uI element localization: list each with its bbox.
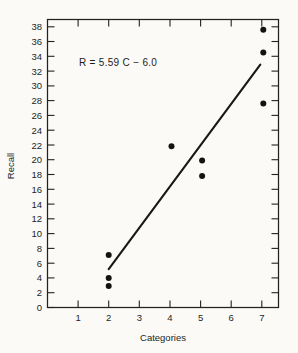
data-point [169,143,175,149]
x-tick-labels: 1 2 3 4 5 6 7 [75,312,264,323]
y-tick-label: 30 [31,80,42,91]
y-tick-label: 12 [31,213,42,224]
y-axis-title: Recall [5,153,16,179]
x-axis-ticks [78,301,262,308]
x-axis-ticks-top [78,20,262,27]
x-tick-label: 4 [167,312,172,323]
scatter-plot-figure: 0 2 4 6 8 10 12 14 16 18 20 22 24 26 28 … [0,0,298,353]
y-tick-label: 32 [31,66,42,77]
data-point [199,173,205,179]
data-point [260,50,266,56]
data-point [106,283,112,289]
y-tick-label: 16 [31,184,42,195]
x-tick-label: 7 [259,312,264,323]
y-tick-label: 26 [31,110,42,121]
data-point [106,252,112,258]
y-tick-labels: 0 2 4 6 8 10 12 14 16 18 20 22 24 26 28 … [31,21,42,313]
x-axis-title: Categories [140,332,186,343]
y-tick-label: 20 [31,154,42,165]
y-tick-label: 28 [31,95,42,106]
x-tick-label: 5 [198,312,203,323]
y-axis-ticks-right [272,27,279,293]
x-tick-label: 6 [229,312,234,323]
x-tick-label: 1 [75,312,80,323]
y-tick-label: 24 [31,125,42,136]
x-tick-label: 3 [137,312,142,323]
plot-canvas: 0 2 4 6 8 10 12 14 16 18 20 22 24 26 28 … [0,0,298,353]
y-tick-label: 6 [37,258,42,269]
y-tick-label: 10 [31,228,42,239]
regression-equation-label: R = 5.59 C − 6.0 [79,57,157,68]
regression-fit-line [109,65,261,270]
y-tick-label: 18 [31,169,42,180]
y-tick-label: 8 [37,243,42,254]
data-point [260,101,266,107]
data-point [106,275,112,281]
data-point [199,157,205,163]
y-tick-label: 38 [31,21,42,32]
y-tick-label: 14 [31,199,42,210]
x-tick-label: 2 [106,312,111,323]
data-point [260,27,266,33]
y-tick-label: 4 [37,272,42,283]
y-tick-label: 0 [37,302,42,313]
y-tick-label: 36 [31,36,42,47]
y-tick-label: 2 [37,287,42,298]
y-tick-label: 22 [31,140,42,151]
y-axis-ticks [48,27,55,308]
y-tick-label: 34 [31,51,42,62]
